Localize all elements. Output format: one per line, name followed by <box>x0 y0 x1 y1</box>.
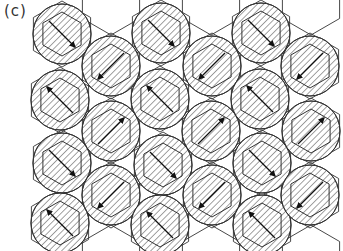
domain-cell <box>183 36 241 96</box>
domain-cell <box>231 69 289 129</box>
domain-cell <box>233 133 291 193</box>
domain-cell <box>183 165 241 225</box>
domain-cell <box>82 165 140 225</box>
domain-cell <box>82 36 140 96</box>
domain-cell <box>33 133 91 193</box>
domain-cell <box>31 193 89 251</box>
domain-cell <box>182 101 240 161</box>
domain-cell <box>232 3 290 63</box>
domain-circle-hatched <box>31 193 89 251</box>
domain-cells <box>31 3 340 251</box>
grid-hexagon <box>182 0 239 35</box>
lattice-diagram: (c) <box>0 0 343 251</box>
domain-cell <box>134 135 192 195</box>
grid-hexagon <box>182 225 239 251</box>
grid-hexagon <box>282 0 339 35</box>
domain-cell <box>33 4 91 64</box>
panel-label: (c) <box>4 2 27 20</box>
lattice-canvas <box>0 0 343 251</box>
domain-cell <box>281 36 339 96</box>
domain-cell <box>82 101 140 161</box>
domain-cell <box>281 165 339 225</box>
domain-cell <box>31 70 89 130</box>
domain-cell <box>131 69 189 129</box>
domain-cell <box>132 3 190 63</box>
domain-cell <box>131 195 189 251</box>
domain-cell <box>282 101 340 161</box>
